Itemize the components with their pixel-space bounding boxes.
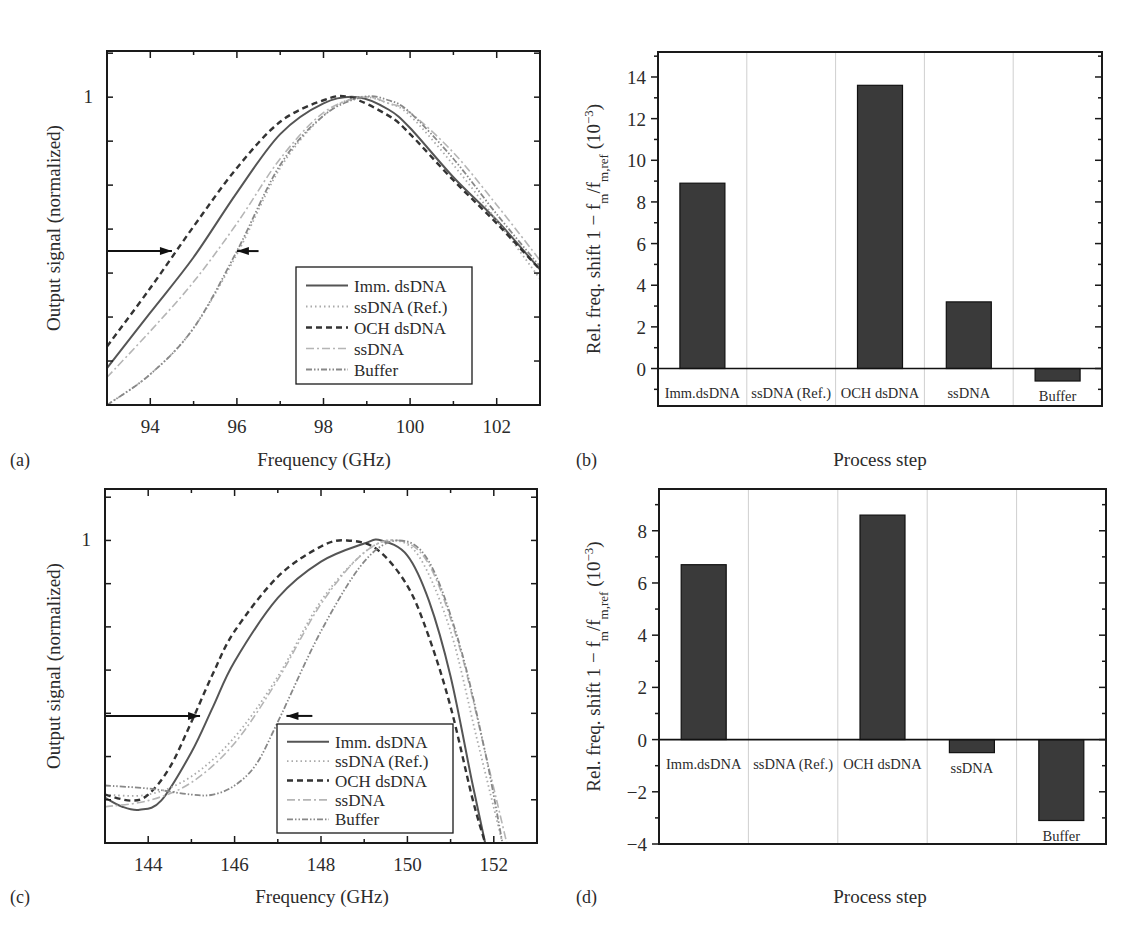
ylabel-tail: (10 <box>583 562 605 592</box>
ylabel-sub: m,ref <box>596 153 611 181</box>
y-tick-label: 12 <box>627 109 646 130</box>
figure-canvas: 9496981001021Imm. dsDNAssDNA (Ref.)OCH d… <box>0 0 1148 951</box>
ylabel-sub: m <box>596 193 611 203</box>
x-axis-title: Process step <box>833 449 926 470</box>
y-tick-label: −2 <box>627 782 647 803</box>
x-tick-label: 100 <box>396 416 425 437</box>
bar-ssdna <box>949 740 994 753</box>
x-axis-title: Process step <box>833 886 926 907</box>
legend-label: Imm. dsDNA <box>354 277 447 296</box>
y-axis-title: Output signal (normalized) <box>43 563 65 769</box>
ylabel-sub: m <box>596 631 611 641</box>
category-label: ssDNA (Ref.) <box>753 756 833 773</box>
y-tick-label: 0 <box>637 359 647 380</box>
bar-buffer <box>1035 369 1080 381</box>
category-label: OCH dsDNA <box>841 385 920 401</box>
category-label: Buffer <box>1043 828 1081 844</box>
category-label: ssDNA <box>947 385 990 401</box>
y-axis-title: Output signal (normalized) <box>43 125 65 331</box>
panel-label: (c) <box>10 887 30 908</box>
ylabel-sub: m,ref <box>596 591 611 619</box>
y-tick-label: −4 <box>627 834 648 855</box>
ylabel-sup: −3 <box>581 548 596 562</box>
y-tick-label: 8 <box>637 192 647 213</box>
bar-buffer <box>1039 740 1084 821</box>
panel-d-bar-chart: Imm.dsDNAssDNA (Ref.)OCH dsDNAssDNABuffe… <box>576 489 1106 908</box>
category-label: Imm.dsDNA <box>665 385 741 401</box>
y-tick-label: 2 <box>638 677 648 698</box>
ylabel-end: ) <box>583 541 605 547</box>
x-tick-label: 102 <box>482 416 511 437</box>
x-tick-label: 148 <box>307 854 336 875</box>
panel-b-bar-chart: Imm.dsDNAssDNA (Ref.)OCH dsDNAssDNABuffe… <box>576 52 1102 471</box>
ylabel-end: ) <box>583 104 605 110</box>
bar-imm-dsdna <box>680 183 725 368</box>
x-tick-label: 150 <box>393 854 422 875</box>
legend-label: ssDNA <box>335 791 386 810</box>
category-label: OCH dsDNA <box>843 756 922 772</box>
legend-label: Imm. dsDNA <box>335 733 428 752</box>
category-label: ssDNA (Ref.) <box>751 385 831 402</box>
ylabel-mid: /f <box>583 619 604 631</box>
category-label: Buffer <box>1039 388 1077 404</box>
y-tick-label: 0 <box>638 730 648 751</box>
x-tick-label: 152 <box>480 854 509 875</box>
y-tick-label: 8 <box>638 521 648 542</box>
y-tick-label: 6 <box>638 573 648 594</box>
y-tick-label: 10 <box>627 150 646 171</box>
panel-a-line-chart: 9496981001021Imm. dsDNAssDNA (Ref.)OCH d… <box>10 51 540 471</box>
category-label: ssDNA <box>951 760 994 776</box>
panel-label: (b) <box>576 450 597 471</box>
y-tick-label: 14 <box>627 67 647 88</box>
ylabel-sup: −3 <box>581 110 596 124</box>
y-tick-label: 2 <box>637 317 647 338</box>
legend: Imm. dsDNAssDNA (Ref.)OCH dsDNAssDNABuff… <box>296 267 472 384</box>
x-tick-label: 146 <box>220 854 249 875</box>
y-axis-title: Rel. freq. shift 1 − fm/fm,ref (10−3) <box>581 541 611 791</box>
x-tick-label: 94 <box>141 416 161 437</box>
x-tick-label: 144 <box>134 854 163 875</box>
legend-label: ssDNA (Ref.) <box>354 298 448 317</box>
x-axis-title: Frequency (GHz) <box>257 449 390 471</box>
panel-label: (d) <box>576 887 597 908</box>
y-axis-title: Rel. freq. shift 1 − fm/fm,ref (10−3) <box>581 104 611 354</box>
legend-label: ssDNA <box>354 340 405 359</box>
arrow-left-icon <box>237 247 249 255</box>
legend-label: ssDNA (Ref.) <box>335 752 429 771</box>
ylabel-tail: (10 <box>583 124 605 154</box>
y-tick-label: 1 <box>82 529 92 550</box>
bar-och-dsdna <box>858 85 903 368</box>
ylabel-mid: /f <box>583 181 604 193</box>
x-tick-label: 96 <box>227 416 246 437</box>
bar-ssdna <box>946 302 991 369</box>
y-tick-label: 4 <box>638 625 648 646</box>
legend-label: Buffer <box>354 361 398 380</box>
arrow-right-icon <box>160 247 172 255</box>
panel-c-line-chart: 1441461481501521Imm. dsDNAssDNA (Ref.)OC… <box>10 489 537 908</box>
legend-label: OCH dsDNA <box>354 319 447 338</box>
x-tick-label: 98 <box>314 416 333 437</box>
arrow-left-icon <box>286 712 298 720</box>
legend: Imm. dsDNAssDNA (Ref.)OCH dsDNAssDNABuff… <box>277 724 453 833</box>
y-tick-label: 4 <box>637 275 647 296</box>
legend-label: Buffer <box>335 810 379 829</box>
x-axis-title: Frequency (GHz) <box>255 886 388 908</box>
ylabel-main: Rel. freq. shift 1 − f <box>583 203 604 354</box>
y-tick-label: 6 <box>637 234 647 255</box>
ylabel-main: Rel. freq. shift 1 − f <box>583 640 604 791</box>
bar-imm-dsdna <box>681 565 726 740</box>
legend-label: OCH dsDNA <box>335 772 428 791</box>
category-label: Imm.dsDNA <box>666 756 742 772</box>
y-tick-label: 1 <box>84 86 94 107</box>
bar-och-dsdna <box>860 515 905 739</box>
panel-label: (a) <box>10 450 30 471</box>
